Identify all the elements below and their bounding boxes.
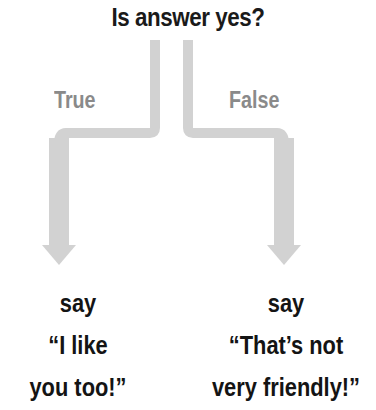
true-outcome-line: you too!” [12, 366, 143, 408]
true-outcome-line: say [12, 282, 143, 324]
true-branch-arrow-icon [42, 40, 155, 265]
false-outcome-line: “That’s not [202, 324, 370, 366]
false-outcome: say “That’s not very friendly!” [186, 282, 376, 408]
false-branch-arrow-icon [188, 40, 301, 265]
false-outcome-line: very friendly!” [202, 366, 370, 408]
true-branch-label: True [54, 86, 96, 114]
false-branch-label: False [229, 86, 279, 114]
false-outcome-line: say [202, 282, 370, 324]
true-outcome: say “I like you too!” [0, 282, 156, 408]
true-outcome-line: “I like [12, 324, 143, 366]
